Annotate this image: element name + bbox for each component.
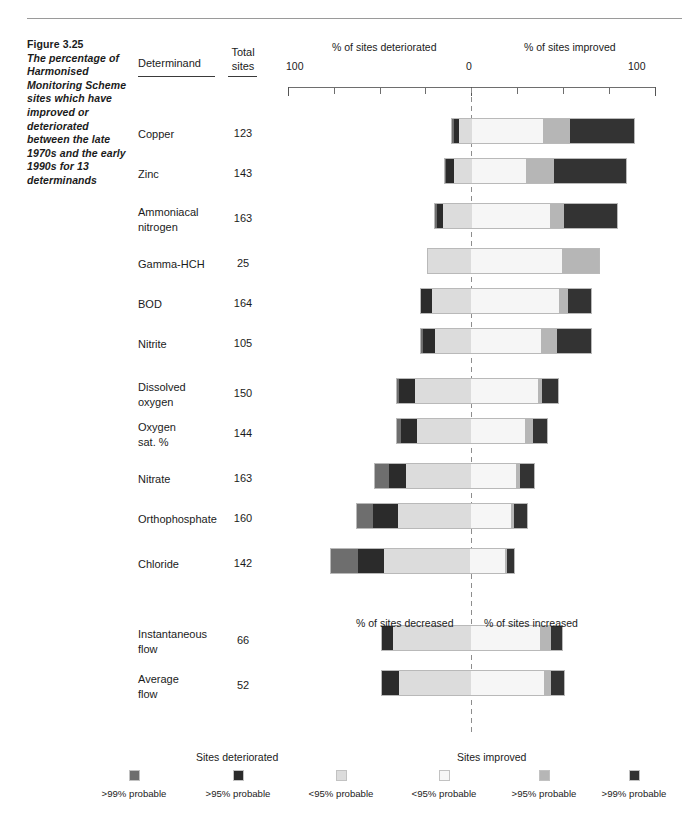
segment-improved-95	[562, 249, 598, 273]
axis-tick	[609, 87, 610, 94]
row-label-line: Gamma-HCH	[138, 257, 222, 272]
row-total-sites: 164	[221, 297, 265, 309]
segment-improved-99	[568, 289, 592, 313]
stacked-bar	[330, 548, 515, 574]
row-label-line: nitrogen	[138, 220, 222, 235]
chart-row: Nitrate163	[0, 463, 689, 503]
chart-row: Oxygensat. %144	[0, 418, 689, 458]
legend-label: <95% probable	[396, 788, 492, 799]
segment-deteriorated-99	[331, 549, 358, 573]
axis-title-improved: % of sites improved	[524, 41, 616, 53]
segment-deteriorated-lt95	[406, 464, 471, 488]
row-label-line: Nitrite	[138, 337, 222, 352]
stacked-bar	[374, 463, 535, 489]
segment-deteriorated-lt95	[399, 671, 471, 695]
legend-item: >95% probable	[190, 770, 286, 799]
row-label-line: Ammoniacal	[138, 205, 222, 220]
row-label-ammoniacal-nitrogen: Ammoniacalnitrogen	[138, 205, 222, 234]
axis-tick	[517, 87, 518, 94]
segment-improved-95	[550, 204, 565, 228]
legend-swatch-det_95	[233, 770, 244, 781]
segment-deteriorated-95	[423, 329, 436, 353]
chart-row: Orthophosphate160	[0, 503, 689, 543]
segment-improved-lt95	[471, 379, 538, 403]
axis-tick	[563, 87, 564, 94]
axis-tick	[425, 87, 426, 94]
row-label-line: Copper	[138, 127, 222, 142]
chart-row: Chloride142	[0, 548, 689, 588]
row-label-zinc: Zinc	[138, 167, 222, 182]
legend-item: <95% probable	[293, 770, 389, 799]
legend-swatch-det_lt95	[336, 770, 347, 781]
legend-label: >95% probable	[190, 788, 286, 799]
chart-row: Dissolvedoxygen150	[0, 378, 689, 418]
segment-improved-99	[564, 204, 617, 228]
segment-deteriorated-lt95	[432, 289, 472, 313]
chart-row: Instantaneousflow66	[0, 625, 689, 665]
segment-improved-99	[507, 549, 514, 573]
legend-item: >95% probable	[496, 770, 592, 799]
row-label-dissolved-oxygen: Dissolvedoxygen	[138, 380, 222, 409]
row-total-sites: 163	[221, 472, 265, 484]
segment-deteriorated-lt95	[443, 204, 472, 228]
determinand-header-rule	[138, 76, 215, 77]
segment-deteriorated-95	[382, 626, 393, 650]
segment-improved-lt95	[471, 671, 544, 695]
row-label-line: Zinc	[138, 167, 222, 182]
legend-item: >99% probable	[86, 770, 182, 799]
segment-improved-99	[514, 504, 527, 528]
segment-improved-lt95	[472, 204, 550, 228]
legend-label: <95% probable	[293, 788, 389, 799]
segment-deteriorated-lt95	[435, 329, 471, 353]
row-total-sites: 144	[221, 427, 265, 439]
segment-improved-lt95	[471, 329, 540, 353]
segment-improved-99	[542, 379, 558, 403]
segment-deteriorated-lt95	[417, 419, 471, 443]
chart-row: Ammoniacalnitrogen163	[0, 203, 689, 243]
figure-number: Figure 3.25	[27, 38, 127, 52]
row-label-chloride: Chloride	[138, 557, 222, 572]
row-label-line: Instantaneous	[138, 627, 222, 642]
row-total-sites: 150	[221, 387, 265, 399]
row-total-sites: 123	[221, 127, 265, 139]
chart-row: Zinc143	[0, 158, 689, 198]
axis-tick	[288, 87, 289, 96]
axis-title-deteriorated: % of sites deteriorated	[332, 41, 436, 53]
legend-label: >99% probable	[586, 788, 682, 799]
segment-deteriorated-95	[373, 504, 398, 528]
segment-deteriorated-95	[389, 464, 405, 488]
row-label-nitrate: Nitrate	[138, 472, 222, 487]
segment-deteriorated-lt95	[384, 549, 471, 573]
row-label-line: sat. %	[138, 435, 222, 450]
row-label-copper: Copper	[138, 127, 222, 142]
segment-deteriorated-95	[382, 671, 398, 695]
chart-row: Averageflow52	[0, 670, 689, 710]
total-sites-header-rule	[228, 76, 257, 77]
segment-improved-99	[570, 119, 634, 143]
column-header-total-sites: Total sites	[221, 45, 265, 73]
total-sites-line2: sites	[221, 59, 265, 73]
segment-improved-lt95	[472, 159, 527, 183]
axis-tick	[334, 87, 335, 94]
axis-tick	[655, 87, 656, 96]
legend-item: <95% probable	[396, 770, 492, 799]
row-label-bod: BOD	[138, 297, 222, 312]
segment-deteriorated-lt95	[415, 379, 471, 403]
row-label-orthophosphate: Orthophosphate	[138, 512, 222, 527]
stacked-bar	[420, 328, 593, 354]
segment-improved-95	[540, 626, 551, 650]
stacked-bar	[381, 670, 565, 696]
row-label-nitrite: Nitrite	[138, 337, 222, 352]
stacked-bar	[444, 158, 628, 184]
row-label-instantaneous-flow: Instantaneousflow	[138, 627, 222, 656]
top-divider	[27, 18, 682, 19]
row-total-sites: 25	[221, 257, 265, 269]
segment-improved-99	[533, 419, 548, 443]
legend-item: >99% probable	[586, 770, 682, 799]
row-label-line: flow	[138, 642, 222, 657]
segment-improved-95	[541, 329, 557, 353]
row-label-line: flow	[138, 687, 222, 702]
chart-row: BOD164	[0, 288, 689, 328]
flow-axis-title-increased: % of sites increased	[484, 617, 578, 629]
row-label-line: Dissolved	[138, 380, 222, 395]
